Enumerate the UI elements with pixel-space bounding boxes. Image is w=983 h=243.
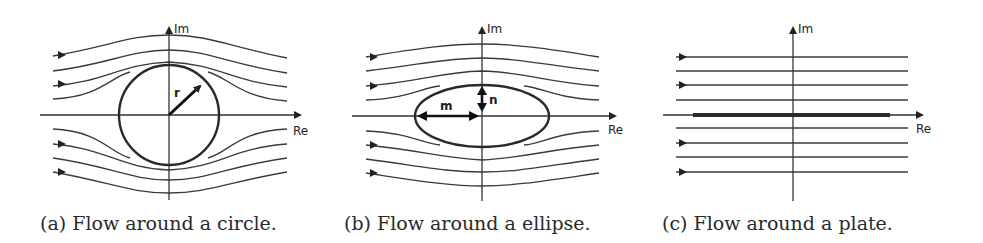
im-axis-label-c: Im <box>798 22 813 36</box>
flow-arrow-icon <box>58 140 66 148</box>
re-axis-label-c: Re <box>916 122 931 136</box>
caption-b: (b) Flow around a ellipse. <box>344 212 591 234</box>
panel-b-streamline-arrows <box>370 53 378 177</box>
flow-diagram-figure: Im Re r Im Re m n <box>0 0 983 243</box>
flow-arrow-icon <box>58 51 66 59</box>
panel-b-axes <box>352 28 615 201</box>
caption-c: (c) Flow around a plate. <box>662 212 893 234</box>
semi-major-label: m <box>440 99 453 113</box>
flow-arrow-icon <box>58 80 66 88</box>
semi-minor-label: n <box>489 93 498 107</box>
re-axis-label-a: Re <box>293 124 308 138</box>
radius-label: r <box>174 86 180 100</box>
im-axis-label-b: Im <box>487 22 502 36</box>
im-axis-label-a: Im <box>174 22 189 36</box>
caption-a: (a) Flow around a circle. <box>40 212 277 234</box>
re-axis-label-b: Re <box>608 123 623 137</box>
